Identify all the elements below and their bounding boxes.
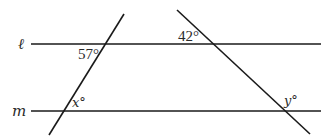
left-transversal (49, 14, 124, 135)
angle-x-label: x° (72, 95, 86, 110)
angle-42-label: 42° (178, 28, 199, 44)
angle-57-label: 57° (78, 46, 99, 62)
angle-y-label: y° (283, 93, 298, 108)
geometry-diagram: ℓ m 57° 42° x° y° (0, 0, 332, 140)
line-m-label: m (12, 102, 26, 120)
diagram-svg: ℓ m 57° 42° x° y° (0, 0, 332, 140)
line-l-label: ℓ (18, 35, 24, 53)
